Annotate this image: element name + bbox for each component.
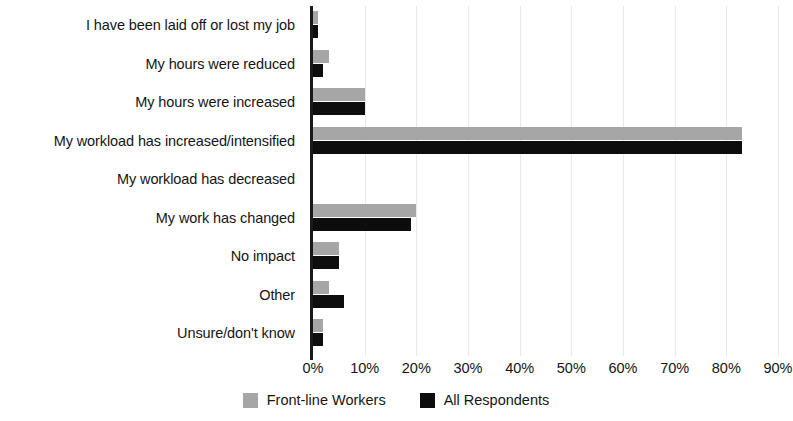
category-label: I have been laid off or lost my job [86,17,295,34]
chart-row: I have been laid off or lost my job [0,6,792,45]
chart-row: My workload has decreased [0,160,792,199]
bar-group [313,122,778,161]
category-label: My work has changed [156,209,295,226]
category-label: My workload has increased/intensified [54,132,295,149]
legend-swatch-icon [420,393,435,408]
bar-all-respondents [313,102,365,115]
chart-row: Unsure/don't know [0,314,792,353]
chart-row: My hours were reduced [0,45,792,84]
bar-group [313,160,778,199]
x-axis-ticks: 0% 10% 20% 30% 40% 50% 60% 70% 80% 90% [313,360,778,382]
chart-row: My workload has increased/intensified [0,122,792,161]
category-label: My hours were reduced [146,55,295,72]
bar-all-respondents [313,25,318,38]
legend-label: Front-line Workers [267,392,386,408]
legend-label: All Respondents [444,392,550,408]
bar-group [313,237,778,276]
bar-all-respondents [313,256,339,269]
bar-group [313,83,778,122]
bar-front-line-workers [313,11,318,24]
legend-item-front-line-workers: Front-line Workers [243,392,386,408]
chart-row: No impact [0,237,792,276]
category-label: Other [259,286,295,303]
x-tick-label: 50% [557,360,586,376]
bar-front-line-workers [313,88,365,101]
bar-front-line-workers [313,50,329,63]
chart-row: Other [0,276,792,315]
bar-all-respondents [313,295,344,308]
x-tick-label: 60% [608,360,637,376]
category-label: My workload has decreased [117,171,295,188]
chart-row: My work has changed [0,199,792,238]
x-tick-label: 30% [453,360,482,376]
category-label: My hours were increased [135,94,295,111]
x-tick-label: 70% [660,360,689,376]
x-tick-label: 80% [712,360,741,376]
x-tick-label: 10% [350,360,379,376]
bar-all-respondents [313,218,411,231]
bar-front-line-workers [313,242,339,255]
bar-front-line-workers [313,127,742,140]
chart-row: My hours were increased [0,83,792,122]
legend-swatch-icon [243,393,258,408]
bar-group [313,45,778,84]
bar-front-line-workers [313,204,416,217]
bar-group [313,6,778,45]
legend-item-all-respondents: All Respondents [420,392,550,408]
bar-front-line-workers [313,281,329,294]
bar-front-line-workers [313,319,323,332]
bar-group [313,314,778,353]
bar-group [313,199,778,238]
bar-group [313,276,778,315]
category-label: No impact [231,248,295,265]
x-tick-label: 0% [303,360,324,376]
x-tick-label: 20% [402,360,431,376]
chart-rows: I have been laid off or lost my job My h… [0,6,792,356]
chart-legend: Front-line Workers All Respondents [0,392,792,408]
bar-all-respondents [313,64,323,77]
bar-all-respondents [313,141,742,154]
bar-all-respondents [313,333,323,346]
x-tick-label: 90% [763,360,792,376]
category-label: Unsure/don't know [177,325,295,342]
x-tick-label: 40% [505,360,534,376]
